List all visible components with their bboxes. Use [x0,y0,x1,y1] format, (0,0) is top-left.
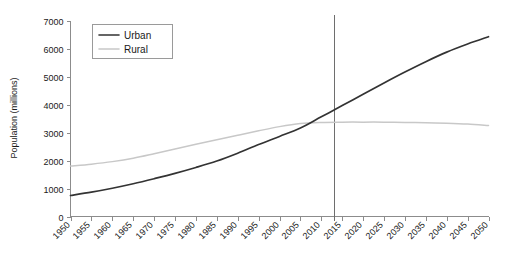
x-tick-label: 1975 [155,220,176,241]
x-tick-label: 1985 [197,220,218,241]
x-axis-tick-labels: 1950195519601965197019751980198519901995… [51,220,490,241]
y-tick-label: 3000 [43,129,63,139]
x-tick-label: 2050 [469,220,490,241]
x-tick-label: 1950 [51,220,72,241]
population-line-chart: 01000200030004000500060007000 1950195519… [0,0,507,260]
chart-canvas: 01000200030004000500060007000 1950195519… [0,0,507,260]
series-line-rural [71,122,489,166]
y-axis-ticks [67,22,71,218]
y-axis-title: Population (millions) [9,77,19,158]
x-tick-label: 2020 [343,220,364,241]
x-tick-label: 2035 [406,220,427,241]
x-tick-label: 2010 [301,220,322,241]
chart-legend: Urban Rural [93,25,173,59]
x-tick-label: 1960 [92,220,113,241]
x-tick-label: 1990 [218,220,239,241]
series-line-urban [71,37,489,196]
y-tick-label: 1000 [43,185,63,195]
x-tick-label: 2005 [280,220,301,241]
y-tick-label: 4000 [43,101,63,111]
series-layer [71,37,489,196]
y-tick-label: 6000 [43,45,63,55]
x-tick-label: 2040 [427,220,448,241]
x-tick-label: 2000 [260,220,281,241]
legend-label-rural: Rural [124,44,148,55]
x-tick-label: 1980 [176,220,197,241]
y-tick-label: 2000 [43,157,63,167]
x-tick-label: 2015 [322,220,343,241]
legend-label-urban: Urban [124,30,151,41]
x-tick-label: 1965 [113,220,134,241]
x-axis-ticks [72,217,490,221]
x-tick-label: 2030 [385,220,406,241]
x-tick-label: 2045 [448,220,469,241]
y-axis-tick-labels: 01000200030004000500060007000 [43,17,63,223]
x-tick-label: 1995 [239,220,260,241]
x-tick-label: 2025 [364,220,385,241]
x-tick-label: 1955 [71,220,92,241]
y-tick-label: 5000 [43,73,63,83]
y-tick-label: 7000 [43,17,63,27]
x-tick-label: 1970 [134,220,155,241]
